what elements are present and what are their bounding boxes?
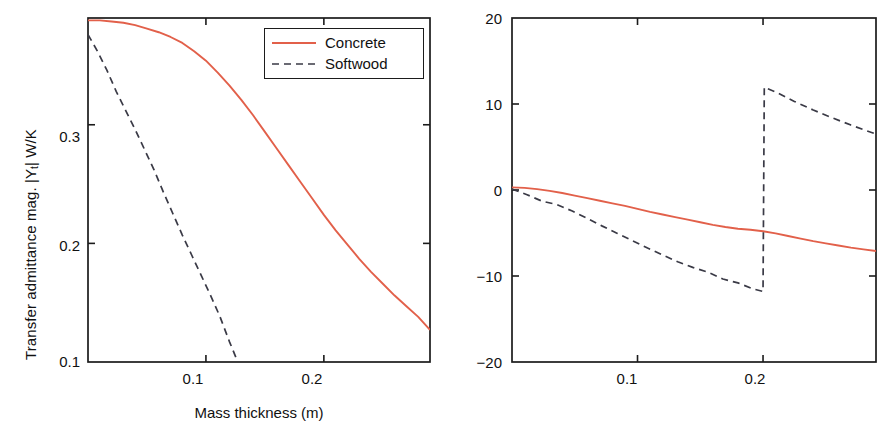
plot-area-right (448, 0, 896, 445)
legend-swatch-softwood-left (271, 58, 317, 70)
chart-panel-transfer-admittance-time-lag: Transfer admittance time lag (h) 20 10 0… (448, 0, 896, 445)
legend-label-softwood-left: Softwood (325, 56, 388, 71)
series-line-softwood (88, 35, 238, 362)
figure-two-panel-chart: Transfer admittance mag. |Yt| W/K 0.3 0.… (0, 0, 896, 445)
axes-frame (512, 18, 876, 362)
legend-swatch-concrete-left (271, 37, 317, 49)
series-line-softwood (512, 87, 876, 291)
x-axis-title-left: Mass thickness (m) (88, 404, 430, 421)
legend-entry-softwood-left: Softwood (271, 53, 416, 74)
legend-entry-concrete-left: Concrete (271, 32, 416, 53)
legend-left: Concrete Softwood (264, 28, 424, 79)
chart-panel-transfer-admittance-magnitude: Transfer admittance mag. |Yt| W/K 0.3 0.… (0, 0, 448, 445)
series-line-concrete (512, 187, 876, 251)
legend-label-concrete-left: Concrete (325, 35, 386, 50)
